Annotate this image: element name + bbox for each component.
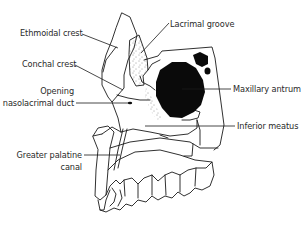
label-ethmoidal-crest: Ethmoidal crest	[20, 28, 83, 38]
label-greater-palatine-canal-line1: Greater palatine	[17, 150, 82, 160]
label-inferior-meatus: Inferior meatus	[237, 121, 298, 131]
label-conchal-crest: Conchal crest	[22, 59, 76, 69]
palatine-process	[93, 126, 114, 200]
foramen-large	[193, 52, 208, 67]
label-opening-nasolacrimal-duct-line1: Opening	[40, 86, 74, 96]
label-lacrimal-groove: Lacrimal groove	[170, 19, 234, 29]
lacrimal-groove-region	[129, 35, 148, 86]
tooth-row	[98, 162, 214, 212]
label-maxillary-antrum: Maxillary antrum	[233, 84, 301, 94]
maxillary-antrum-opening	[156, 62, 205, 118]
leader-lacrimal-groove	[141, 23, 169, 53]
label-opening-nasolacrimal-duct-line2: nasolacrimal duct	[3, 98, 74, 108]
maxilla-diagram: Ethmoidal crest Lacrimal groove Conchal …	[0, 0, 307, 226]
label-greater-palatine-canal-line2: canal	[61, 162, 83, 172]
foramen-small	[205, 68, 211, 75]
leader-conchal-crest	[75, 65, 123, 90]
leader-ethmoidal-crest	[82, 34, 118, 48]
